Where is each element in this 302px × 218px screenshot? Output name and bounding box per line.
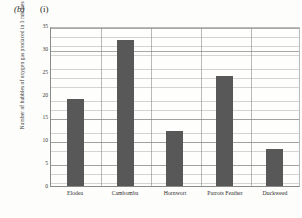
y-tick-15: 15 [34, 115, 48, 121]
bar-slot [101, 28, 151, 186]
y-tick-25: 25 [34, 70, 48, 76]
y-tick-35: 35 [34, 24, 48, 30]
y-tick-30: 30 [34, 47, 48, 53]
x-tick-parrots-feather: Parrots Feather [200, 190, 250, 216]
bar-slot [150, 28, 200, 186]
figure-sub-label: (i) [40, 4, 49, 14]
bar-cambomba [117, 40, 134, 186]
bar-elodea [67, 99, 84, 186]
bar-slot [249, 28, 299, 186]
x-tick-hornwort: Hornwort [150, 190, 200, 216]
bar-series [51, 28, 299, 186]
bar-parrots-feather [216, 76, 233, 186]
x-tick-duckweed: Duckweed [250, 190, 300, 216]
y-axis-title: Number of bubbles of oxygen gas produced… [19, 0, 25, 131]
bar-slot [51, 28, 101, 186]
bar-hornwort [166, 131, 183, 186]
y-tick-20: 20 [34, 93, 48, 99]
figure-panel: (b) (i) Number of bubbles of oxygen gas … [0, 0, 302, 218]
bar-slot [200, 28, 250, 186]
y-axis-tick-labels: 05101520253035 [34, 22, 48, 192]
plot-area [50, 27, 300, 187]
y-tick-5: 5 [34, 161, 48, 167]
y-tick-10: 10 [34, 138, 48, 144]
x-tick-cambomba: Cambomba [100, 190, 150, 216]
x-axis-tick-labels: ElodeaCambombaHornwortParrots FeatherDuc… [50, 190, 300, 216]
bar-duckweed [266, 149, 283, 186]
x-tick-elodea: Elodea [50, 190, 100, 216]
y-tick-0: 0 [34, 184, 48, 190]
